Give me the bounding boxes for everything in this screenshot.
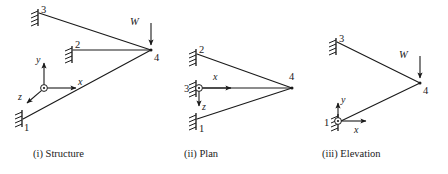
caption-structure: (i) Structure — [33, 148, 84, 159]
support-2-plan — [189, 49, 196, 66]
axis-label-x-structure: x — [77, 76, 83, 87]
node-label-1-elevation: 1 — [324, 117, 329, 128]
node-label-3-elevation: 3 — [339, 33, 344, 44]
caption-elevation: (iii) Elevation — [322, 148, 381, 159]
member-1-4-elevation — [341, 83, 420, 121]
axis-triad-elevation — [335, 103, 366, 124]
support-3-structure — [31, 9, 38, 26]
panel-structure: W y x z 3 2 1 4 — [15, 4, 160, 133]
load-label-elevation: W — [399, 49, 409, 60]
panel-elevation: W y x 3 1 4 — [324, 33, 429, 135]
node-label-3-plan: 3 — [184, 83, 189, 94]
panel-plan: x z 2 3 1 4 — [184, 44, 295, 134]
axis-label-z-structure: z — [17, 91, 22, 102]
node-4-marker-plan — [291, 87, 294, 90]
caption-plan: (ii) Plan — [184, 148, 218, 159]
support-3-elevation — [329, 38, 336, 55]
node-label-2-structure: 2 — [75, 39, 80, 50]
truss-figure: W y x z 3 2 1 4 — [0, 0, 448, 174]
node-label-4-elevation: 4 — [423, 85, 429, 96]
node-4-marker-structure — [150, 49, 153, 52]
axis-triad-plan — [196, 85, 231, 106]
axis-label-y-elevation: y — [340, 94, 346, 105]
axis-label-y-structure: y — [35, 54, 41, 65]
axis-label-z-plan: z — [201, 101, 206, 112]
node-4-marker-elevation — [419, 82, 422, 85]
member-2-4-plan — [197, 54, 292, 88]
axis-label-x-plan: x — [212, 71, 218, 82]
axis-triad-structure — [27, 63, 76, 103]
node-label-2-plan: 2 — [199, 44, 204, 55]
node-label-1-structure: 1 — [24, 122, 29, 133]
node-label-1-plan: 1 — [199, 123, 204, 134]
member-1-4-plan — [197, 88, 292, 119]
load-label-structure: W — [130, 16, 140, 27]
axis-label-x-elevation: x — [353, 124, 359, 135]
support-2-structure — [65, 46, 72, 63]
member-1-4-structure — [23, 50, 151, 119]
node-label-3-structure: 3 — [41, 4, 46, 15]
support-3-plan — [189, 80, 196, 97]
support-1-plan — [189, 113, 196, 130]
support-1-structure — [15, 110, 22, 127]
node-label-4-plan: 4 — [289, 71, 295, 82]
node-label-4-structure: 4 — [154, 52, 160, 63]
